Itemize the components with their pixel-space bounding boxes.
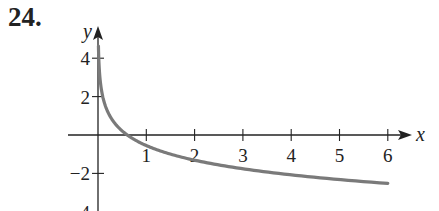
x-tick-label: 2 [190,145,200,166]
x-tick-label: 6 [383,145,393,166]
x-tick-label: 5 [335,145,345,166]
ticks: 12345642−2−4 [70,48,393,211]
x-tick-label: 4 [286,145,296,166]
y-axis-label: y [81,20,92,43]
x-tick-label: 3 [238,145,248,166]
y-tick-label: 2 [81,87,91,108]
y-tick-label: −4 [70,202,91,211]
y-tick-label: 4 [81,48,91,69]
function-graph: xy 12345642−2−4 [0,0,439,211]
x-axis-label: x [415,123,425,145]
y-tick-label: −2 [70,163,90,184]
